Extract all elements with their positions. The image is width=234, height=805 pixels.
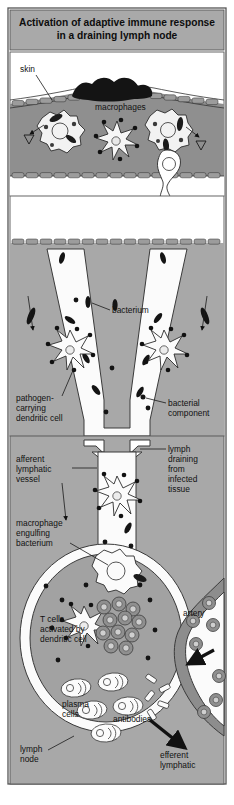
label-mac-engulf-2: engulfing	[16, 528, 50, 538]
label-efferent-2: lymphatic	[160, 760, 195, 770]
basal-cell-row	[12, 239, 220, 244]
label-lymph-node-2: node	[20, 754, 39, 764]
label-bacterial-comp-2: component	[168, 408, 210, 418]
label-afferent-3: vessel	[16, 474, 40, 484]
label-lymph-drain-1: lymph	[168, 444, 191, 454]
label-macrophages: macrophages	[95, 102, 146, 112]
figure-canvas: Activation of adaptive immune response i…	[0, 0, 234, 805]
label-pathogen-dc-2: carrying	[16, 403, 46, 413]
node-panel: afferent lymphatic vessel lymph draining…	[10, 436, 226, 784]
label-artery: artery	[183, 608, 205, 618]
label-skin: skin	[20, 64, 35, 74]
label-lymph-drain-3: from	[168, 464, 185, 474]
label-efferent-1: efferent	[160, 750, 189, 760]
label-afferent-1: afferent	[16, 454, 45, 464]
label-plasma-2: cells	[62, 709, 79, 719]
label-tcells-1: T cells	[40, 614, 64, 624]
label-mac-engulf-1: macrophage	[16, 518, 63, 528]
label-pathogen-dc-3: dendritic cell	[16, 413, 63, 423]
label-antibodies: antibodies	[113, 714, 151, 724]
label-mac-engulf-3: bacterium	[16, 538, 53, 548]
label-pathogen-dc-1: pathogen-	[16, 393, 54, 403]
label-tcells-2: activated by	[40, 624, 86, 634]
immunology-figure: Activation of adaptive immune response i…	[0, 0, 234, 805]
label-bacterial-comp-1: bacterial	[168, 398, 200, 408]
figure-title-line1: Activation of adaptive immune response	[19, 17, 215, 28]
label-lymph-drain-5: tissue	[168, 484, 190, 494]
label-lymph-drain-4: infected	[168, 474, 198, 484]
skin-panel	[10, 52, 224, 204]
epidermis-layer-lower	[10, 173, 224, 178]
label-afferent-2: lymphatic	[16, 464, 51, 474]
label-tcells-3: dendritic cell	[40, 634, 87, 644]
label-bacterium: bacterium	[112, 305, 149, 315]
label-plasma-1: plasma	[62, 699, 89, 709]
vessel-panel: bacterium pathogen- carrying dendritic c…	[10, 196, 224, 436]
figure-title-line2: in a draining lymph node	[57, 30, 178, 41]
label-lymph-node-1: lymph	[20, 744, 43, 754]
label-lymph-drain-2: draining	[168, 454, 198, 464]
